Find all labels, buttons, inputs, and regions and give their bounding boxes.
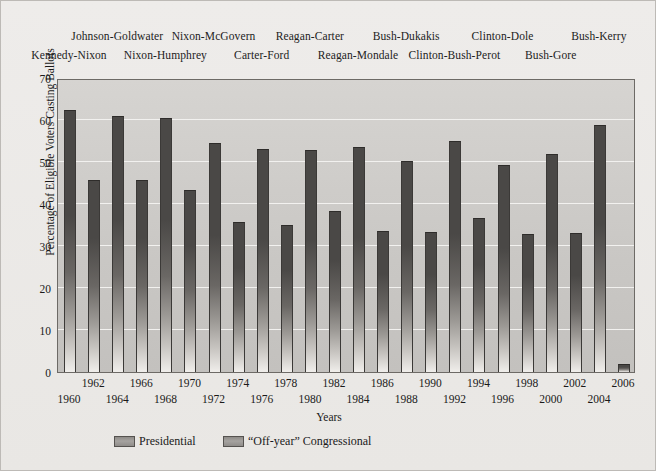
x-tick-label-1994: 1994	[467, 375, 490, 391]
x-tick-label-1998: 1998	[515, 375, 538, 391]
bar-series	[58, 80, 634, 372]
legend-item-off-year-congressional[interactable]: “Off-year” Congressional	[223, 434, 371, 449]
election-label-1996: Clinton-Dole	[472, 27, 534, 46]
x-tick-label-2004: 2004	[587, 391, 610, 407]
x-tick-label-1984: 1984	[347, 391, 370, 407]
chart-figure: Johnson-GoldwaterNixon-McGovernReagan-Ca…	[0, 0, 656, 471]
x-tick-label-1992: 1992	[443, 391, 466, 407]
election-label-1960: Kennedy-Nixon	[31, 46, 106, 65]
election-annotation-row-top: Johnson-GoldwaterNixon-McGovernReagan-Ca…	[1, 27, 656, 46]
election-label-1964: Johnson-Goldwater	[71, 27, 163, 46]
election-label-1980: Reagan-Carter	[276, 27, 344, 46]
bar-1978	[281, 225, 293, 372]
x-tick-label-1986: 1986	[371, 375, 394, 391]
bar-1992	[449, 141, 461, 372]
y-tick-label-0: 0	[45, 367, 51, 379]
bar-1986	[377, 231, 389, 372]
bar-2006	[618, 364, 630, 372]
bar-1990	[425, 232, 437, 372]
x-tick-label-2002: 2002	[563, 375, 586, 391]
legend-swatch-icon	[114, 436, 135, 447]
bar-2002	[570, 233, 582, 372]
bar-1982	[329, 211, 341, 372]
bar-1998	[522, 234, 534, 372]
election-annotations: Johnson-GoldwaterNixon-McGovernReagan-Ca…	[1, 27, 656, 73]
x-tick-label-2000: 2000	[539, 391, 562, 407]
x-tick-label-1968: 1968	[154, 391, 177, 407]
bar-2004	[594, 125, 606, 372]
x-tick-label-1962: 1962	[82, 375, 105, 391]
election-label-1984: Reagan-Mondale	[318, 46, 399, 65]
election-label-1968: Nixon-Humphrey	[124, 46, 207, 65]
bar-1964	[112, 116, 124, 372]
legend-item-presidential[interactable]: Presidential	[114, 434, 196, 449]
bar-1962	[88, 180, 100, 372]
bar-1988	[401, 161, 413, 372]
election-label-2004: Bush-Kerry	[571, 27, 626, 46]
bar-1970	[184, 190, 196, 372]
bar-1974	[233, 222, 245, 372]
x-tick-label-2006: 2006	[611, 375, 634, 391]
x-tick-label-1970: 1970	[178, 375, 201, 391]
x-tick-label-1960: 1960	[58, 391, 81, 407]
x-axis-title: Years	[1, 411, 656, 423]
election-annotation-row-bottom: Kennedy-NixonNixon-HumphreyCarter-FordRe…	[1, 46, 656, 65]
bar-1968	[160, 118, 172, 372]
y-axis-title: Percentage of Eligible Voters Casting Ba…	[44, 7, 56, 297]
x-tick-label-1974: 1974	[226, 375, 249, 391]
x-tick-label-1978: 1978	[274, 375, 297, 391]
x-tick-label-1966: 1966	[130, 375, 153, 391]
election-label-1988: Bush-Dukakis	[373, 27, 440, 46]
x-tick-label-1964: 1964	[106, 391, 129, 407]
bar-1966	[136, 180, 148, 372]
y-tick-label-10: 10	[40, 325, 52, 337]
bar-1972	[209, 143, 221, 372]
chart-legend: Presidential“Off-year” Congressional	[1, 434, 656, 454]
legend-label: Presidential	[139, 434, 196, 449]
bar-1994	[473, 218, 485, 372]
x-tick-label-1972: 1972	[202, 391, 225, 407]
legend-swatch-icon	[223, 436, 244, 447]
legend-label: “Off-year” Congressional	[248, 434, 371, 449]
x-tick-label-1980: 1980	[298, 391, 321, 407]
x-axis: 1962196619701974197819821986199019941998…	[57, 375, 635, 409]
bar-1996	[498, 165, 510, 372]
x-tick-label-1990: 1990	[419, 375, 442, 391]
bar-2000	[546, 154, 558, 372]
x-axis-row-top: 1962196619701974197819821986199019941998…	[57, 375, 635, 391]
x-tick-label-1982: 1982	[322, 375, 345, 391]
x-tick-label-1988: 1988	[395, 391, 418, 407]
election-label-2000: Bush-Gore	[525, 46, 576, 65]
bar-1980	[305, 150, 317, 372]
election-label-1972: Nixon-McGovern	[172, 27, 256, 46]
election-label-1992: Clinton-Bush-Perot	[408, 46, 500, 65]
plot-area	[57, 79, 635, 373]
bar-1984	[353, 147, 365, 372]
x-tick-label-1996: 1996	[491, 391, 514, 407]
bar-1976	[257, 149, 269, 372]
x-axis-row-bottom: 1960196419681972197619801984198819921996…	[57, 391, 635, 407]
x-tick-label-1976: 1976	[250, 391, 273, 407]
bar-1960	[64, 110, 76, 372]
election-label-1976: Carter-Ford	[234, 46, 289, 65]
